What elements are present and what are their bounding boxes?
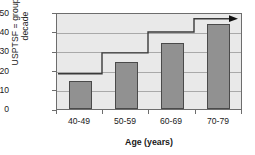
- y-axis-title: USPTSF = group by decade: [8, 0, 32, 84]
- bar-60-69: [161, 43, 184, 109]
- x-tick-mark-3: [195, 110, 196, 114]
- y-tick-label-20: 20: [0, 67, 9, 76]
- bar-50-59: [115, 62, 138, 109]
- plot-area: [56, 13, 242, 110]
- y-axis-title-line1: USPTSF = group by: [9, 0, 19, 65]
- x-tick-mark-1: [102, 110, 103, 114]
- y-tick-label-30: 30: [0, 47, 9, 56]
- y-tick-label-10: 10: [0, 86, 9, 95]
- bar-70-79: [207, 24, 230, 109]
- y-tick-label-40: 40: [0, 28, 9, 37]
- x-tick-mark-2: [148, 110, 149, 114]
- x-tick-label-70-79: 70-79: [190, 117, 246, 126]
- y-axis-title-line2: decade: [20, 12, 30, 41]
- y-tick-label-0: 0: [0, 105, 9, 114]
- y-tick-label-50: 50: [0, 9, 9, 18]
- x-tick-mark-4: [241, 110, 242, 114]
- x-axis-title: Age (years): [56, 137, 242, 147]
- bar-chart: USPTSF = group by decade 50 40 30 20 10 …: [0, 0, 255, 155]
- bar-40-49: [69, 81, 92, 109]
- x-tick-mark-0: [56, 110, 57, 114]
